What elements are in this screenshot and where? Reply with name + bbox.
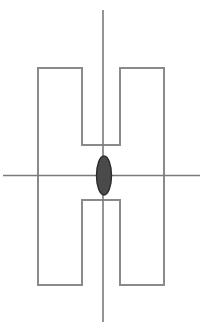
- figure-diagram: [0, 0, 205, 335]
- center-ellipse: [97, 156, 112, 195]
- figure-canvas: [0, 0, 205, 335]
